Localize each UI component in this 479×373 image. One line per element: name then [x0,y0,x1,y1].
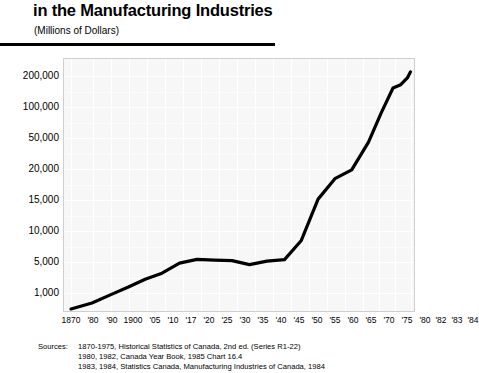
source-line: Sources: 1870-1975, Historical Statistic… [38,342,325,352]
source-text: 1870-1975, Historical Statistics of Cana… [78,342,300,352]
x-axis-tick-label: '40 [275,315,286,325]
y-axis-tick-label: 100,000 [1,102,59,112]
x-axis-tick-label: '75 [401,315,412,325]
x-axis-tick-label: '50 [311,315,322,325]
x-axis-tick-label: '35 [257,315,268,325]
x-axis-tick-label: 1900 [124,315,143,325]
x-axis: 1870'80'901900'05'10'17'20'25'30'35'40'4… [63,315,415,327]
x-axis-tick-label: '25 [221,315,232,325]
title-divider [0,43,275,46]
y-axis-tick-label: 50,000 [1,133,59,143]
sources-label: Sources: [38,342,78,352]
x-axis-tick-label: '82 [435,315,446,325]
chart-plot-area [63,58,415,312]
x-axis-tick-label: '80 [419,315,430,325]
series-line [64,59,414,311]
x-axis-tick-label: '10 [167,315,178,325]
source-text: 1980, 1982, Canada Year Book, 1985 Chart… [78,352,242,362]
y-axis-tick-label: 15,000 [1,195,59,205]
y-axis-tick-label: 1,000 [1,288,59,298]
x-axis-tick-label: '83 [451,315,462,325]
x-axis-tick-label: '65 [365,315,376,325]
chart-subtitle: (Millions of Dollars) [34,25,119,36]
sources-note: Sources: 1870-1975, Historical Statistic… [38,342,325,373]
x-axis-tick-label: '05 [149,315,160,325]
source-text: 1983, 1984, Statistics Canada, Manufactu… [78,362,325,372]
x-axis-tick-label: '70 [383,315,394,325]
x-axis-tick-label: '17 [185,315,196,325]
y-axis: 200,000100,00050,00020,00015,00010,0005,… [0,58,59,312]
y-axis-tick-label: 5,000 [1,257,59,267]
page-title: in the Manufacturing Industries [33,1,272,20]
x-axis-tick-label: 1870 [62,315,81,325]
source-line: 1983, 1984, Statistics Canada, Manufactu… [38,362,325,372]
x-axis-tick-label: '84 [467,315,478,325]
x-axis-tick-label: '80 [87,315,98,325]
x-axis-tick-label: '90 [106,315,117,325]
y-axis-tick-label: 20,000 [1,164,59,174]
y-axis-tick-label: 200,000 [1,71,59,81]
sources-label-spacer [38,352,78,362]
source-line: 1980, 1982, Canada Year Book, 1985 Chart… [38,352,325,362]
sources-label-spacer [38,362,78,372]
y-axis-tick-label: 10,000 [1,226,59,236]
x-axis-tick-label: '20 [203,315,214,325]
x-axis-tick-label: '30 [239,315,250,325]
x-axis-tick-label: '45 [293,315,304,325]
x-axis-tick-label: '55 [329,315,340,325]
x-axis-tick-label: '60 [347,315,358,325]
